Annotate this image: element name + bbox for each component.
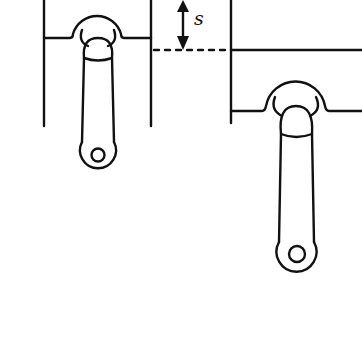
left-rod-big-end <box>80 142 116 168</box>
piston-stroke-diagram <box>0 0 362 343</box>
right-gudgeon-horn-right <box>310 97 318 116</box>
left-rod-big-end-hole <box>92 149 105 162</box>
stroke-label: s <box>194 7 204 29</box>
stroke-arrow-head-up <box>177 0 189 12</box>
right-rod-small-end <box>281 106 313 137</box>
stroke-arrow-head-down <box>177 36 189 50</box>
left-piston-crown <box>44 16 151 38</box>
piston-left <box>44 0 151 168</box>
left-rod-small-end <box>84 38 112 61</box>
right-rod-big-end-hole <box>289 246 305 262</box>
left-rod-shank <box>82 58 114 142</box>
right-rod-shank <box>279 134 314 242</box>
right-gudgeon-horn-left <box>274 97 282 116</box>
piston-right <box>231 0 362 272</box>
